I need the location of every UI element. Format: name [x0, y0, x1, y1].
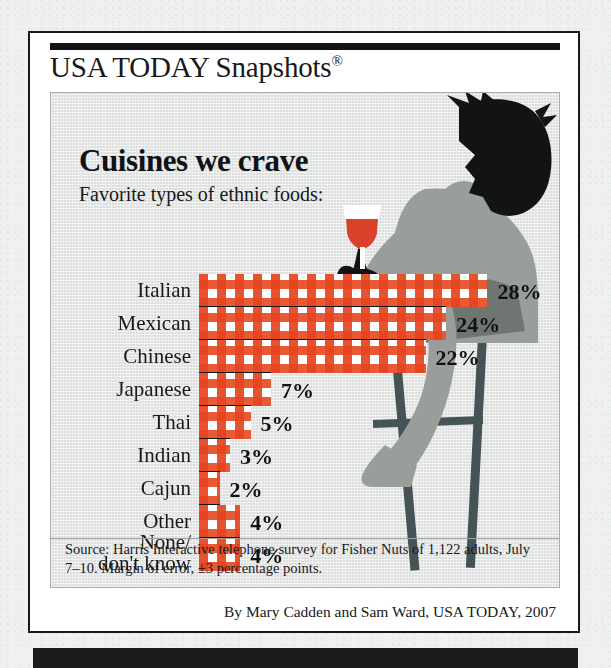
bar-japanese — [199, 373, 271, 406]
value-label: 7% — [281, 378, 314, 404]
chart-row: Indian3% — [51, 439, 560, 472]
category-label: Other — [51, 511, 191, 532]
value-label: 4% — [250, 510, 283, 536]
snapshot-card: USA TODAY Snapshots® — [28, 31, 580, 633]
chart-row: Chinese22% — [51, 340, 560, 373]
chart-row: Japanese7% — [51, 373, 560, 406]
bar-indian — [199, 439, 230, 472]
category-label: Japanese — [51, 379, 191, 400]
chart-row: Thai5% — [51, 406, 560, 439]
chart-panel: Cuisines we crave Favorite types of ethn… — [50, 92, 560, 588]
category-label: Cajun — [51, 478, 191, 499]
category-label: Indian — [51, 445, 191, 466]
brand-title: USA TODAY Snapshots® — [50, 51, 343, 84]
category-label: Mexican — [51, 313, 191, 334]
top-rule — [50, 43, 560, 50]
chart-row: Mexican24% — [51, 307, 560, 340]
page-title: Cuisines we crave — [79, 143, 308, 179]
category-label: Italian — [51, 280, 191, 301]
value-label: 24% — [456, 312, 500, 338]
bar-other — [199, 505, 240, 538]
bar-cajun — [199, 472, 220, 505]
brand-name: USA TODAY Snapshots — [50, 51, 331, 83]
bar-italian — [199, 274, 487, 307]
value-label: 3% — [240, 444, 273, 470]
registered-mark: ® — [331, 53, 342, 69]
category-label: Thai — [51, 412, 191, 433]
value-label: 28% — [497, 279, 541, 305]
source-note: Source: Harris Interactive telephone sur… — [65, 540, 545, 579]
chart-row: Cajun2% — [51, 472, 560, 505]
bar-thai — [199, 406, 251, 439]
value-label: 5% — [261, 411, 294, 437]
bar-mexican — [199, 307, 446, 340]
source-divider — [51, 538, 559, 539]
chart-row: Italian28% — [51, 274, 560, 307]
value-label: 2% — [230, 477, 263, 503]
page-subtitle: Favorite types of ethnic foods: — [79, 183, 323, 206]
bottom-band — [33, 648, 578, 668]
bar-chinese — [199, 340, 426, 373]
byline: By Mary Cadden and Sam Ward, USA TODAY, … — [224, 603, 556, 621]
value-label: 22% — [436, 345, 480, 371]
category-label: Chinese — [51, 346, 191, 367]
